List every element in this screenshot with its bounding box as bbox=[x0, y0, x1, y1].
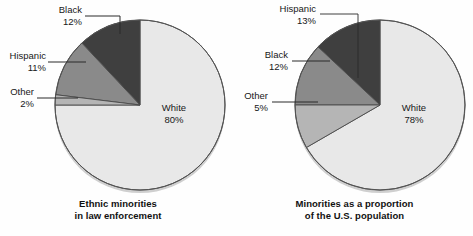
callout-label-other: Other 5% bbox=[218, 90, 268, 113]
callout-label-hispanic: Hispanic 13% bbox=[258, 3, 316, 26]
callout-other-value: 2% bbox=[0, 98, 34, 110]
callout-black-name: Black bbox=[26, 4, 82, 16]
chart-panel-law-enforcement: Black 12% Hispanic 11% Other 2% White 80… bbox=[0, 0, 236, 236]
callout-hispanic-name: Hispanic bbox=[0, 50, 46, 62]
caption-line-1: Ethnic minorities bbox=[0, 198, 236, 210]
slice-white-name: White bbox=[148, 102, 200, 114]
callout-black-value: 12% bbox=[26, 16, 82, 28]
callout-hispanic-name: Hispanic bbox=[258, 3, 316, 15]
callout-other-name: Other bbox=[0, 86, 34, 98]
caption-line-2: of the U.S. population bbox=[236, 210, 473, 222]
slice-label-white: White 78% bbox=[388, 102, 440, 125]
callout-label-other: Other 2% bbox=[0, 86, 34, 109]
callout-other-name: Other bbox=[218, 90, 268, 102]
caption-line-2: in law enforcement bbox=[0, 210, 236, 222]
callout-hispanic-value: 11% bbox=[0, 62, 46, 74]
caption-line-1: Minorities as a proportion bbox=[236, 198, 473, 210]
slice-white-value: 78% bbox=[388, 114, 440, 126]
callout-label-black: Black 12% bbox=[26, 4, 82, 27]
chart-panel-us-population: Hispanic 13% Black 12% Other 5% White 78… bbox=[236, 0, 473, 236]
callout-label-hispanic: Hispanic 11% bbox=[0, 50, 46, 73]
pie-chart-figure: Black 12% Hispanic 11% Other 2% White 80… bbox=[0, 0, 473, 236]
slice-label-white: White 80% bbox=[148, 102, 200, 125]
slice-white-value: 80% bbox=[148, 114, 200, 126]
chart-caption-us-population: Minorities as a proportion of the U.S. p… bbox=[236, 198, 473, 222]
callout-black-name: Black bbox=[236, 49, 288, 61]
slice-white-name: White bbox=[388, 102, 440, 114]
callout-label-black: Black 12% bbox=[236, 49, 288, 72]
callout-black-value: 12% bbox=[236, 61, 288, 73]
chart-caption-law-enforcement: Ethnic minorities in law enforcement bbox=[0, 198, 236, 222]
callout-other-value: 5% bbox=[218, 102, 268, 114]
callout-hispanic-value: 13% bbox=[258, 15, 316, 27]
